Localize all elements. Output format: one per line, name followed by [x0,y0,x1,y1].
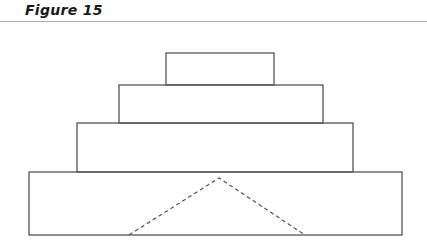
base-block [29,172,402,235]
dashed-triangle [129,178,305,235]
second-block [119,85,323,123]
stepped-pyramid-diagram [0,0,427,249]
top-block [166,53,274,85]
third-block [77,123,353,172]
